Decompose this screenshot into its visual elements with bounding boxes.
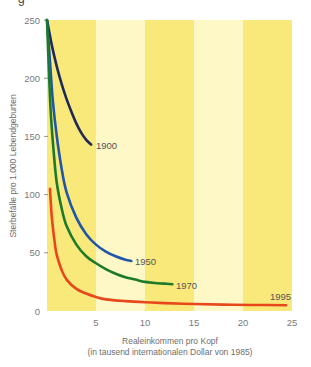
background-bands (47, 20, 292, 311)
y-axis-title: Sterbefälle pro 1.000 Lebendgeburten (8, 94, 18, 237)
y-tick-label: 100 (24, 189, 40, 200)
x-axis-title: Realeinkommen pro Kopf (122, 336, 219, 346)
y-tick-label: 150 (24, 131, 40, 142)
x-axis-subtitle: (in tausend internationalen Dollar von 1… (88, 347, 253, 357)
series-label-1995: 1995 (270, 291, 291, 302)
y-tick-label: 0 (35, 306, 40, 317)
y-tick-label: 250 (24, 15, 40, 26)
series-label-1950: 1950 (135, 256, 156, 267)
y-axis-ticks: 050100150200250 (24, 15, 48, 317)
background-band (243, 20, 292, 311)
series-label-1970: 1970 (176, 280, 197, 291)
x-tick-label: 25 (287, 317, 298, 328)
y-tick-label: 200 (24, 73, 40, 84)
chart: 050100150200250 510152025 1900 1950 1970… (0, 0, 311, 367)
background-band (194, 20, 243, 311)
x-tick-label: 15 (189, 317, 200, 328)
x-tick-label: 20 (238, 317, 249, 328)
x-axis-ticks: 510152025 (93, 317, 297, 328)
x-tick-label: 10 (140, 317, 151, 328)
series-label-1900: 1900 (96, 140, 117, 151)
x-tick-label: 5 (93, 317, 98, 328)
background-band (145, 20, 194, 311)
y-tick-label: 50 (29, 247, 40, 258)
